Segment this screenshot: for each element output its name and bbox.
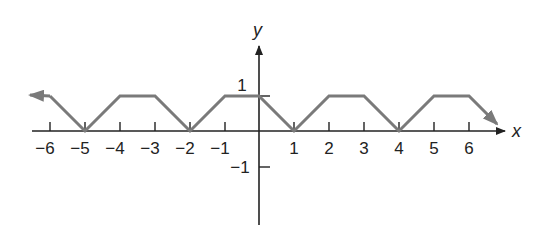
tick-label-neg3: −3: [140, 139, 159, 158]
tick-label-1: 1: [289, 139, 298, 158]
function-curve: [50, 96, 497, 131]
tick-label-neg1: −1: [210, 139, 229, 158]
tick-label-6: 6: [464, 139, 473, 158]
graph: −6 −5 −4 −3 −2 −1 1 2 3 4 5 6 1 −1 x y: [0, 0, 557, 228]
tick-label-neg2: −2: [175, 139, 194, 158]
curve-left-arrow: [30, 95, 50, 96]
tick-label-neg5: −5: [70, 139, 89, 158]
tick-label-4: 4: [394, 139, 403, 158]
tick-label-5: 5: [429, 139, 438, 158]
x-tick-labels: −6 −5 −4 −3 −2 −1 1 2 3 4 5 6: [35, 139, 473, 158]
tick-label-neg6: −6: [35, 139, 54, 158]
tick-label-3: 3: [359, 139, 368, 158]
tick-label-2: 2: [324, 139, 333, 158]
x-axis-label: x: [511, 121, 522, 141]
y-tick-label-1: 1: [237, 76, 246, 95]
y-tick-label-neg1: −1: [230, 158, 249, 177]
tick-label-neg4: −4: [105, 139, 124, 158]
y-axis-label: y: [251, 20, 263, 40]
